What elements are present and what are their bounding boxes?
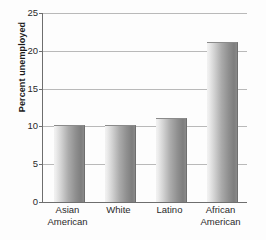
bar bbox=[207, 42, 238, 202]
x-axis-category-label: White bbox=[93, 204, 144, 216]
bar bbox=[156, 118, 187, 202]
y-axis-tick-label: 10 bbox=[18, 121, 38, 131]
y-axis-tick-label: 15 bbox=[18, 84, 38, 94]
bars-layer bbox=[43, 13, 247, 202]
y-axis-tick-label: 25 bbox=[18, 8, 38, 18]
plot-area bbox=[42, 13, 247, 203]
bar-chart: Percent unemployed 0510152025 AsianAmeri… bbox=[0, 0, 266, 240]
bar bbox=[54, 125, 85, 202]
bar bbox=[105, 125, 136, 202]
y-axis-tick bbox=[39, 202, 43, 203]
x-axis-category-label: AfricanAmerican bbox=[195, 204, 246, 228]
x-axis-category-label: AsianAmerican bbox=[42, 204, 93, 228]
y-axis-tick-label: 20 bbox=[18, 46, 38, 56]
y-axis-tick-label: 0 bbox=[18, 197, 38, 207]
x-axis-category-labels: AsianAmericanWhiteLatinoAfricanAmerican bbox=[42, 204, 246, 238]
y-axis-tick-label: 5 bbox=[18, 159, 38, 169]
y-axis-tick-labels: 0510152025 bbox=[16, 0, 38, 240]
x-axis-category-label: Latino bbox=[144, 204, 195, 216]
